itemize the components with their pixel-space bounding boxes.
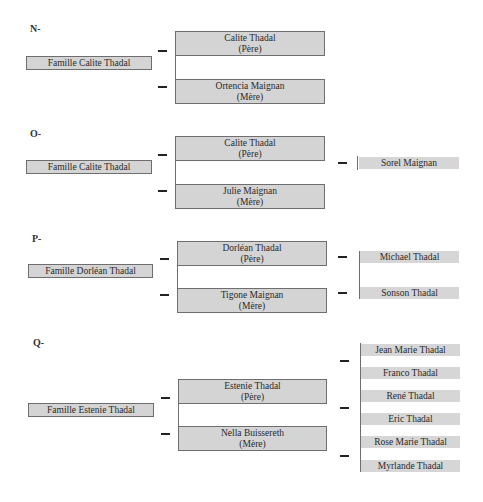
connector-dash xyxy=(161,433,170,435)
connector-dash xyxy=(158,50,167,52)
mother-role: (Mère) xyxy=(176,92,324,103)
family-box: Famille Dorléan Thadal xyxy=(28,264,153,278)
mother-box: Nella Buissereth (Mère) xyxy=(178,426,327,451)
father-box: Calite Thadal (Père) xyxy=(175,31,325,56)
mother-name: Tigone Maignan xyxy=(178,290,326,301)
section-label: Q- xyxy=(33,337,44,348)
section-label: N- xyxy=(30,23,41,34)
connector-dash xyxy=(158,190,167,192)
father-box: Dorléan Thadal (Père) xyxy=(177,241,327,266)
connector-dash xyxy=(158,154,167,156)
mother-box: Tigone Maignan (Mère) xyxy=(177,288,327,313)
connector-dash xyxy=(338,162,347,164)
child-box: Myrlande Thadal xyxy=(361,460,460,472)
father-name: Dorléan Thadal xyxy=(178,243,326,254)
mother-role: (Mère) xyxy=(178,301,326,312)
mother-role: (Mère) xyxy=(179,439,326,450)
section-label: P- xyxy=(32,233,41,244)
connector-dash xyxy=(160,294,169,296)
father-name: Calite Thadal xyxy=(176,33,324,44)
connector-dash xyxy=(338,256,347,258)
child-box: René Thadal xyxy=(361,390,460,402)
father-box: Calite Thadal (Père) xyxy=(175,136,325,161)
connector-dash xyxy=(340,407,349,409)
connector-dash xyxy=(158,86,167,88)
father-role: (Père) xyxy=(179,392,326,403)
child-box: Franco Thadal xyxy=(361,367,460,379)
family-box: Famille Calite Thadal xyxy=(26,56,152,70)
connector-dash xyxy=(340,455,349,457)
children-connector-line xyxy=(360,343,361,472)
mother-name: Ortencia Maignan xyxy=(176,81,324,92)
father-role: (Père) xyxy=(176,149,324,160)
mother-name: Julie Maignan xyxy=(176,186,324,197)
father-role: (Père) xyxy=(176,44,324,55)
mother-box: Ortencia Maignan (Mère) xyxy=(175,79,325,104)
family-box: Famille Calite Thadal xyxy=(26,160,152,174)
child-box: Eric Thadal xyxy=(361,413,460,425)
father-name: Estenie Thadal xyxy=(179,381,326,392)
father-name: Calite Thadal xyxy=(176,138,324,149)
mother-role: (Mère) xyxy=(176,197,324,208)
connector-dash xyxy=(340,360,349,362)
child-box: Rose Marie Thadal xyxy=(361,436,460,448)
connector-dash xyxy=(160,258,169,260)
connector-dash xyxy=(338,292,347,294)
child-box: Jean Marie Thadal xyxy=(361,344,460,356)
connector-dash xyxy=(161,397,170,399)
mother-box: Julie Maignan (Mère) xyxy=(175,184,325,209)
child-box: Sonson Thadal xyxy=(360,287,459,299)
child-box: Michael Thadal xyxy=(360,251,459,263)
mother-name: Nella Buissereth xyxy=(179,428,326,439)
father-box: Estenie Thadal (Père) xyxy=(178,379,327,404)
children-connector-line xyxy=(357,156,358,170)
section-label: O- xyxy=(30,128,41,139)
family-box: Famille Estenie Thadal xyxy=(28,403,154,417)
child-box: Sorel Maignan xyxy=(359,157,459,169)
father-role: (Père) xyxy=(178,254,326,265)
